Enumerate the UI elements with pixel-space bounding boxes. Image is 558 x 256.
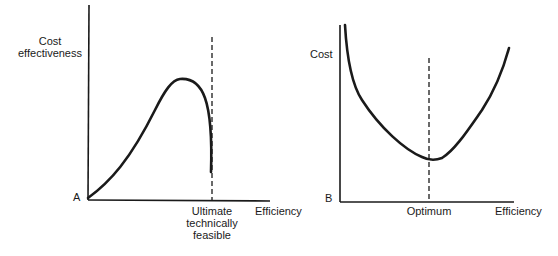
left-x-axis — [88, 200, 270, 201]
right-cost-curve — [345, 25, 509, 160]
right-diagram: Cost B Optimum Efficiency — [310, 25, 542, 217]
left-marker-label-line3: feasible — [193, 229, 231, 241]
left-y-label-line1: Cost — [39, 35, 62, 47]
left-y-axis — [88, 5, 89, 200]
right-x-label: Efficiency — [495, 205, 542, 217]
left-marker-label-line1: Ultimate — [192, 205, 232, 217]
right-y-label: Cost — [310, 48, 333, 60]
left-cost-effectiveness-curve — [88, 79, 211, 198]
left-marker-label-line2: technically — [186, 217, 238, 229]
right-origin-label: B — [325, 192, 332, 204]
left-x-label: Efficiency — [255, 205, 302, 217]
left-diagram: Cost effectiveness A Ultimate technicall… — [18, 5, 302, 241]
right-marker-label: Optimum — [407, 205, 452, 217]
left-origin-label: A — [73, 191, 81, 203]
diagram-canvas: Cost effectiveness A Ultimate technicall… — [0, 0, 558, 256]
left-y-label-line2: effectiveness — [18, 47, 83, 59]
